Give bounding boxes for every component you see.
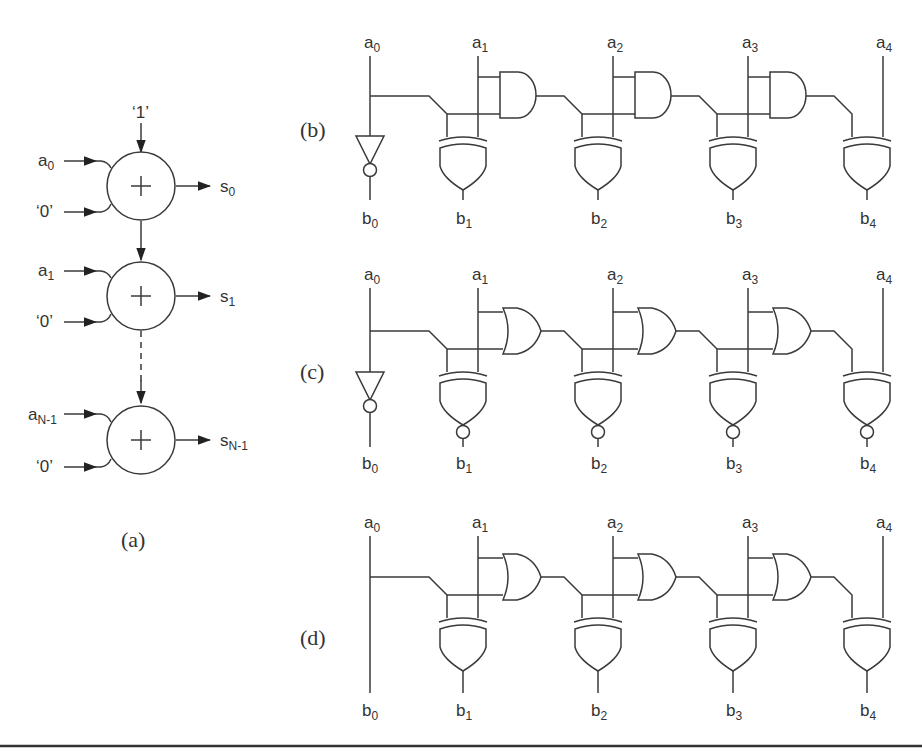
svg-text:(b): (b) [300, 117, 326, 142]
svg-text:‘0’: ‘0’ [36, 457, 53, 476]
panel-a-ripple-adder: ‘1’ a0 ‘0’ s0 a1 ‘0’ [28, 103, 248, 552]
svg-text:a2: a2 [607, 513, 623, 535]
panel-b-and-xor: (b) a0 a1 a2 a3 a4 [300, 33, 892, 231]
adder-stage-0: a0 ‘0’ s0 [36, 151, 236, 221]
svg-text:a4: a4 [876, 33, 892, 55]
svg-text:aN-1: aN-1 [28, 405, 57, 427]
circuit-figure: ‘1’ a0 ‘0’ s0 a1 ‘0’ [0, 0, 922, 754]
svg-text:b2: b2 [591, 454, 607, 476]
caption-a: (a) [121, 527, 145, 552]
svg-text:‘0’: ‘0’ [36, 202, 53, 221]
svg-text:‘0’: ‘0’ [36, 312, 53, 331]
svg-text:a3: a3 [742, 33, 758, 55]
svg-text:b3: b3 [726, 454, 742, 476]
svg-text:b1: b1 [456, 209, 472, 231]
svg-text:b2: b2 [591, 209, 607, 231]
svg-text:s1: s1 [220, 287, 236, 309]
svg-text:b1: b1 [456, 454, 472, 476]
svg-text:a0: a0 [38, 151, 54, 173]
svg-text:b0: b0 [362, 701, 378, 723]
svg-text:s0: s0 [220, 177, 236, 199]
svg-text:a0: a0 [364, 513, 380, 535]
adder-stage-1: a1 ‘0’ s1 [36, 261, 236, 331]
svg-text:b4: b4 [860, 701, 876, 723]
svg-text:a3: a3 [742, 265, 758, 287]
svg-text:a1: a1 [472, 513, 488, 535]
svg-text:b4: b4 [860, 454, 876, 476]
svg-text:a1: a1 [38, 261, 54, 283]
svg-text:a0: a0 [364, 265, 380, 287]
svg-text:b3: b3 [726, 209, 742, 231]
svg-text:b4: b4 [860, 209, 876, 231]
svg-text:b3: b3 [726, 701, 742, 723]
panel-c-or-xnor: (c) a0 a1 a2 a3 a4 [300, 265, 892, 476]
svg-text:a1: a1 [472, 33, 488, 55]
panel-d-or-xor: (d) a0 a1 a2 a3 a4 b0 [300, 513, 892, 723]
svg-text:a1: a1 [472, 265, 488, 287]
svg-text:b0: b0 [362, 209, 378, 231]
adder-stage-n-1: aN-1 ‘0’ sN-1 [28, 405, 248, 476]
carry-in-label: ‘1’ [132, 103, 149, 122]
svg-text:a4: a4 [876, 265, 892, 287]
svg-text:b2: b2 [591, 701, 607, 723]
svg-text:(d): (d) [300, 625, 326, 650]
svg-text:a2: a2 [607, 33, 623, 55]
svg-text:b0: b0 [362, 454, 378, 476]
svg-text:(c): (c) [300, 359, 324, 384]
svg-text:a4: a4 [876, 513, 892, 535]
svg-text:b1: b1 [456, 701, 472, 723]
svg-text:a0: a0 [364, 33, 380, 55]
svg-text:a2: a2 [607, 265, 623, 287]
svg-text:a3: a3 [742, 513, 758, 535]
svg-text:sN-1: sN-1 [220, 431, 248, 453]
